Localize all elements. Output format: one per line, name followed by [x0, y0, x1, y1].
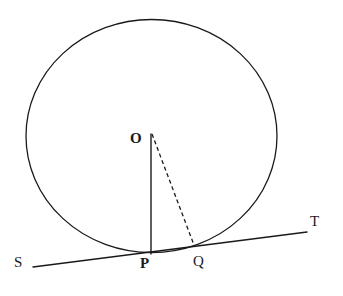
geometry-canvas	[0, 0, 343, 296]
label-point-t: T	[310, 214, 319, 229]
geometry-diagram: O P Q S T	[0, 0, 343, 296]
label-center-o: O	[130, 131, 142, 146]
label-point-s: S	[14, 255, 22, 270]
dashed-segment-OQ	[152, 134, 194, 245]
label-point-q: Q	[193, 254, 204, 269]
tangent-line-ST	[33, 232, 307, 267]
label-point-p: P	[140, 256, 149, 271]
